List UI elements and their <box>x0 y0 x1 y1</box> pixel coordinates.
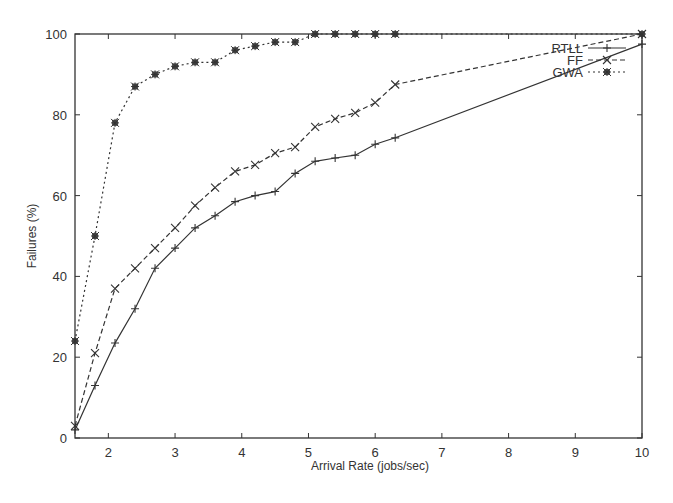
data-point-marker <box>131 305 139 313</box>
y-tick-label: 0 <box>60 431 67 446</box>
x-tick-label: 3 <box>171 445 178 460</box>
series-line <box>75 44 642 430</box>
data-point-marker <box>191 58 199 66</box>
data-point-marker <box>111 339 119 347</box>
data-point-marker <box>251 192 259 200</box>
data-point-marker <box>331 115 339 123</box>
data-point-marker <box>351 30 359 38</box>
data-point-marker <box>211 212 219 220</box>
data-point-marker <box>111 285 119 293</box>
data-point-marker <box>351 151 359 159</box>
legend-item-gwa: GWA <box>552 65 626 80</box>
series-line <box>75 34 642 426</box>
data-point-marker <box>231 46 239 54</box>
y-tick-label: 20 <box>53 350 67 365</box>
data-point-marker <box>151 70 159 78</box>
x-axis: 2345678910 <box>105 34 649 460</box>
legend-label: GWA <box>552 65 583 80</box>
data-point-marker <box>71 337 79 345</box>
data-point-marker <box>211 58 219 66</box>
data-point-marker <box>391 134 399 142</box>
plot-border <box>75 34 642 438</box>
x-tick-label: 2 <box>105 445 112 460</box>
data-point-marker <box>351 109 359 117</box>
x-tick-label: 8 <box>505 445 512 460</box>
data-point-marker <box>171 62 179 70</box>
x-axis-label: Arrival Rate (jobs/sec) <box>311 459 429 473</box>
data-point-marker <box>191 202 199 210</box>
data-point-marker <box>371 30 379 38</box>
data-point-marker <box>271 38 279 46</box>
data-point-marker <box>291 38 299 46</box>
series-rtll <box>71 40 646 434</box>
series-ff <box>71 30 646 430</box>
x-tick-label: 10 <box>635 445 649 460</box>
series-layer <box>71 30 646 434</box>
data-point-marker <box>251 42 259 50</box>
data-point-marker <box>638 30 646 38</box>
line-chart: 2345678910 020406080100 Arrival Rate (jo… <box>0 0 673 503</box>
data-point-marker <box>131 264 139 272</box>
data-point-marker <box>251 161 259 169</box>
data-point-marker <box>111 119 119 127</box>
data-point-marker <box>331 30 339 38</box>
legend-marker <box>603 44 611 52</box>
data-point-marker <box>91 232 99 240</box>
x-tick-label: 7 <box>438 445 445 460</box>
data-point-marker <box>271 149 279 157</box>
data-point-marker <box>231 198 239 206</box>
x-tick-label: 9 <box>572 445 579 460</box>
y-tick-label: 80 <box>53 108 67 123</box>
data-point-marker <box>331 154 339 162</box>
legend: RTLLFFGWA <box>551 41 626 80</box>
data-point-marker <box>171 224 179 232</box>
data-point-marker <box>231 167 239 175</box>
data-point-marker <box>371 99 379 107</box>
legend-item-rtll: RTLL <box>551 41 626 56</box>
y-tick-label: 60 <box>53 189 67 204</box>
data-point-marker <box>311 30 319 38</box>
plot-frame <box>75 34 642 438</box>
data-point-marker <box>291 143 299 151</box>
y-axis-label: Failures (%) <box>25 204 39 269</box>
data-point-marker <box>91 349 99 357</box>
y-tick-label: 40 <box>53 269 67 284</box>
legend-marker <box>603 68 611 76</box>
data-point-marker <box>211 184 219 192</box>
data-point-marker <box>311 157 319 165</box>
y-tick-label: 100 <box>45 27 67 42</box>
data-point-marker <box>71 426 79 434</box>
data-point-marker <box>311 123 319 131</box>
x-tick-label: 4 <box>238 445 245 460</box>
data-point-marker <box>131 83 139 91</box>
data-point-marker <box>638 40 646 48</box>
data-point-marker <box>391 30 399 38</box>
data-point-marker <box>151 244 159 252</box>
x-tick-label: 6 <box>372 445 379 460</box>
series-line <box>75 34 642 341</box>
data-point-marker <box>371 140 379 148</box>
data-point-marker <box>91 381 99 389</box>
x-tick-label: 5 <box>305 445 312 460</box>
